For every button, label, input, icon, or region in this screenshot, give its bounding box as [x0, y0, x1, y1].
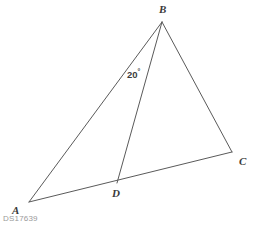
angle-label-ABD: 20°	[127, 68, 140, 80]
watermark-id: DS17639	[3, 215, 38, 223]
vertex-label-B: B	[159, 4, 166, 15]
vertex-label-D: D	[112, 188, 120, 199]
angle-value: 20	[127, 69, 138, 80]
diagram-background	[0, 0, 262, 230]
vertex-label-C: C	[239, 156, 246, 167]
degree-icon: °	[138, 68, 141, 75]
geometry-diagram	[0, 0, 262, 230]
